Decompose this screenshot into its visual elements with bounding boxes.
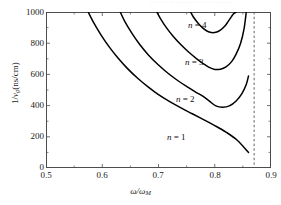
y-axis-label-prefix: 1/	[10, 97, 20, 104]
x-tick-0.8: 0.8	[200, 170, 230, 180]
curve-label-n1: n = 1	[167, 132, 186, 142]
curve-label-n2-symbol: n	[176, 94, 181, 104]
x-axis-tick-labels: 0.5 0.6 0.7 0.8 0.9	[0, 170, 281, 184]
curve-label-n3-symbol: n	[185, 57, 190, 67]
curve-label-n2: n = 2	[176, 94, 195, 104]
x-tick-0.7: 0.7	[143, 170, 173, 180]
y-axis-label: 1/vg(ns/cm)	[10, 38, 20, 128]
y-tick-200: 200	[4, 132, 44, 141]
curve-label-n4-value: = 4	[195, 20, 207, 30]
curve-label-n2-value: = 2	[183, 94, 195, 104]
curve-label-n3: n = 3	[185, 57, 204, 67]
curve-label-n1-value: = 1	[174, 132, 186, 142]
y-tick-1000: 1000	[4, 8, 44, 17]
curve-label-n3-value: = 3	[192, 57, 204, 67]
curve-label-n4: n = 4	[188, 20, 207, 30]
x-axis-label-subscript: M	[145, 189, 150, 196]
x-axis-label: ω/ωM	[0, 186, 281, 196]
y-axis-label-variable: v	[10, 93, 20, 97]
x-tick-0.6: 0.6	[87, 170, 117, 180]
top-cropped-text-fragment: · ·· ·· ·· ··· ·· ·· ··· ·· ·· ·· ·· ···…	[150, 0, 281, 9]
x-axis-label-main: ω/ω	[130, 186, 145, 196]
figure-panel: · ·· ·· ·· ··· ·· ·· ··· ·· ·· ·· ·· ···…	[0, 0, 281, 205]
y-axis-label-subscript: g	[13, 90, 20, 93]
curve-label-n1-symbol: n	[167, 132, 172, 142]
x-tick-0.9: 0.9	[256, 170, 281, 180]
plot-canvas	[46, 12, 271, 168]
x-tick-0.5: 0.5	[31, 170, 61, 180]
y-axis-label-units: (ns/cm)	[10, 62, 20, 90]
curve-label-n4-symbol: n	[188, 20, 193, 30]
